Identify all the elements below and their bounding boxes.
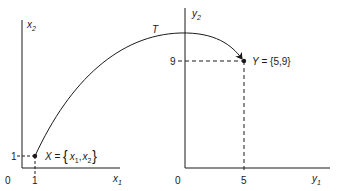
left-coordinate-system: x2 x1 0 1 1 X = {x1,x2} [5, 19, 122, 186]
left-x-tick-label: 1 [32, 175, 38, 186]
right-y-tick-label: 9 [170, 56, 176, 67]
left-y-tick-label: 1 [11, 151, 17, 162]
mapping-t: T [35, 24, 242, 156]
point-y-marker [242, 59, 246, 63]
point-x-label: X = {x1,x2} [44, 148, 97, 164]
right-x-axis-label: y1 [311, 173, 321, 186]
left-origin-label: 0 [5, 175, 11, 186]
right-x-tick-label: 5 [241, 175, 247, 186]
right-y-axis-label: y2 [191, 8, 201, 21]
left-y-axis-label: x2 [26, 19, 36, 32]
transformation-diagram: x2 x1 0 1 1 X = {x1,x2} y2 y1 0 5 9 Y = … [0, 0, 344, 191]
mapping-label: T [152, 24, 159, 35]
mapping-curve [35, 33, 242, 156]
point-y-label: Y = {5,9} [252, 56, 291, 67]
right-coordinate-system: y2 y1 0 5 9 Y = {5,9} [170, 8, 330, 186]
right-origin-label: 0 [175, 175, 181, 186]
left-x-axis-label: x1 [112, 173, 122, 186]
